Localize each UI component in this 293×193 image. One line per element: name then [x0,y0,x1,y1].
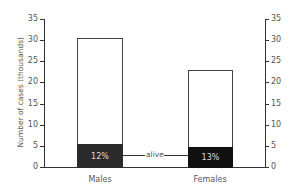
males-percent-label: 12% [77,152,123,161]
tick-label: 15 [22,100,38,108]
category-label-males: Males [70,175,130,184]
bar-females-alive: 13% [188,147,233,168]
tick-label: 30 [271,36,287,44]
alive-leader-line-left [123,155,145,156]
tick-label: 25 [22,57,38,65]
tick-label: 35 [22,15,38,23]
tick-label: 10 [22,121,38,129]
tick-label: 20 [271,78,287,86]
y-axis-label: Number of cases (thousands) [16,38,25,148]
females-percent-label: 13% [188,153,233,162]
left-axis [44,19,45,168]
tick-label: 5 [22,142,38,150]
alive-leader-line-right [164,155,188,156]
tick-label: 10 [271,121,287,129]
tick-label: 0 [22,163,38,171]
category-label-females: Females [180,175,240,184]
tick-label: 35 [271,15,287,23]
bar-males-alive: 12% [77,144,123,168]
tick-label: 15 [271,100,287,108]
alive-annotation: alive [146,150,164,159]
tick-label: 5 [271,142,287,150]
tick-label: 30 [22,36,38,44]
tick-label: 25 [271,57,287,65]
tick-label: 0 [271,163,287,171]
tick-label: 20 [22,78,38,86]
